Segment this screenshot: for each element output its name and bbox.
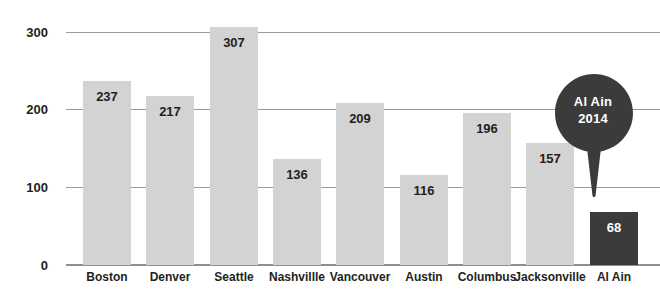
map-pin-icon bbox=[552, 72, 636, 198]
bar-al-ain[interactable]: 68 bbox=[590, 212, 638, 265]
bar-denver[interactable]: 217 bbox=[146, 96, 194, 265]
bar-seattle[interactable]: 307 bbox=[210, 27, 258, 265]
bar-value-label: 68 bbox=[590, 221, 638, 234]
callout-text: Al Ain 2014 bbox=[552, 93, 634, 127]
y-tick-label-200: 200 bbox=[2, 103, 48, 116]
bar-vancouver[interactable]: 209 bbox=[336, 103, 384, 265]
bar-rect bbox=[336, 103, 384, 265]
bar-chart: 300 200 100 0 237 217 307 136 209 116 bbox=[0, 0, 660, 306]
bar-rect bbox=[146, 96, 194, 265]
x-axis: Boston Denver Seattle Nashvillle Vancouv… bbox=[66, 270, 660, 292]
bar-rect bbox=[83, 81, 131, 265]
callout-line-1: Al Ain bbox=[552, 93, 634, 110]
bar-austin[interactable]: 116 bbox=[400, 175, 448, 265]
bar-value-label: 196 bbox=[463, 122, 511, 135]
y-tick-label-100: 100 bbox=[2, 181, 48, 194]
al-ain-callout[interactable]: Al Ain 2014 bbox=[552, 72, 636, 198]
bar-value-label: 237 bbox=[83, 90, 131, 103]
bar-value-label: 307 bbox=[210, 36, 258, 49]
x-tick-label-al-ain: Al Ain bbox=[574, 270, 654, 284]
bar-nashvillle[interactable]: 136 bbox=[273, 159, 321, 265]
bar-value-label: 136 bbox=[273, 168, 321, 181]
bar-value-label: 217 bbox=[146, 105, 194, 118]
bar-value-label: 209 bbox=[336, 112, 384, 125]
bar-boston[interactable]: 237 bbox=[83, 81, 131, 265]
y-tick-label-300: 300 bbox=[2, 26, 48, 39]
bar-value-label: 116 bbox=[400, 184, 448, 197]
bar-rect bbox=[210, 27, 258, 265]
callout-line-2: 2014 bbox=[552, 110, 634, 127]
y-tick-label-0: 0 bbox=[2, 259, 48, 272]
bar-columbus[interactable]: 196 bbox=[463, 113, 511, 265]
